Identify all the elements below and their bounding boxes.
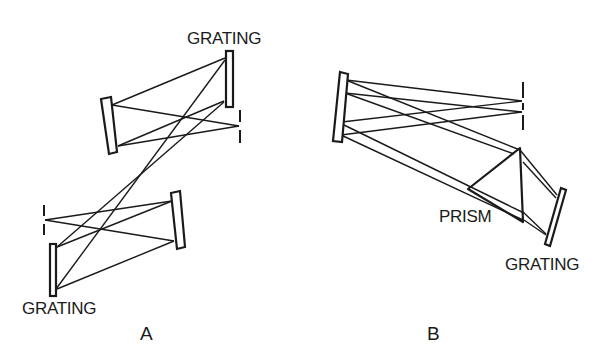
panel-a-upper-rays (112, 58, 239, 146)
panel-a-top-grating (226, 51, 233, 107)
panel-b-grating-label: GRATING (505, 255, 579, 274)
panel-a-caption: A (140, 323, 153, 344)
panel-b: PRISM GRATING B (333, 72, 579, 344)
panel-b-prism-label: PRISM (439, 207, 491, 226)
panel-a-bottom-grating (50, 244, 56, 296)
panel-b-mirror (333, 72, 348, 142)
optical-diagram: GRATING GRATING A (0, 0, 607, 360)
panel-a-lower-rays (45, 201, 174, 289)
panel-a-bottom-grating-label: GRATING (22, 299, 96, 318)
panel-a: GRATING GRATING A (22, 29, 261, 344)
panel-b-caption: B (427, 323, 440, 344)
panel-a-top-grating-label: GRATING (187, 29, 261, 48)
